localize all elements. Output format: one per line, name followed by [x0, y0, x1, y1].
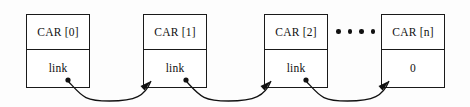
- node-car-0[interactable]: CAR [0] link: [26, 14, 90, 88]
- node-car-1-data-label: CAR [1]: [144, 15, 206, 50]
- node-car-1[interactable]: CAR [1] link: [143, 14, 207, 88]
- continuation-dot: [371, 29, 376, 34]
- continuation-dot: [359, 29, 364, 34]
- node-car-n[interactable]: CAR [n] 0: [381, 14, 445, 88]
- continuation-dot: [336, 29, 341, 34]
- node-car-0-link-label: link: [27, 49, 89, 87]
- node-car-1-link-label: link: [144, 49, 206, 87]
- node-car-0-data-label: CAR [0]: [27, 15, 89, 50]
- node-car-2-link-label: link: [265, 49, 327, 87]
- linked-list-diagram: CAR [0] link CAR [1] link CAR [2] link C…: [0, 0, 470, 107]
- continuation-dots-icon: [336, 29, 375, 34]
- node-car-2[interactable]: CAR [2] link: [264, 14, 328, 88]
- node-car-2-data-label: CAR [2]: [265, 15, 327, 50]
- continuation-dot: [348, 29, 353, 34]
- node-car-n-null-label: 0: [382, 49, 444, 87]
- node-car-n-data-label: CAR [n]: [382, 15, 444, 50]
